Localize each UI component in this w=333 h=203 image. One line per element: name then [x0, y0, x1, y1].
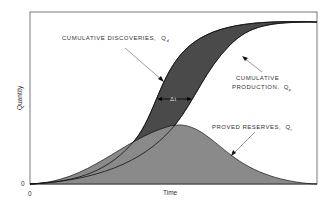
reserves-arrow [233, 132, 255, 154]
x-axis-label: Time [163, 189, 178, 196]
discoveries-label: CUMULATIVE DISCOVERIES, Qd [62, 35, 169, 43]
discoveries-arrow [125, 48, 162, 80]
svg-text:Δt: Δt [170, 96, 177, 102]
x-origin-label: 0 [28, 190, 32, 197]
diagram-canvas: Δt CUMULATIVE DISCOVERIES, Qd CUMULATIVE… [0, 0, 333, 203]
reserves-label: PROVED RESERVES, Qr [212, 124, 293, 132]
y-axis-label: Quantity [16, 85, 24, 110]
proved-reserves-area [30, 125, 317, 184]
y-origin-label: 0 [21, 180, 25, 187]
production-arrow [244, 58, 262, 72]
production-label-line1: CUMULATIVE [236, 75, 279, 81]
production-label-line2: PRODUCTION, Qp [232, 84, 292, 92]
